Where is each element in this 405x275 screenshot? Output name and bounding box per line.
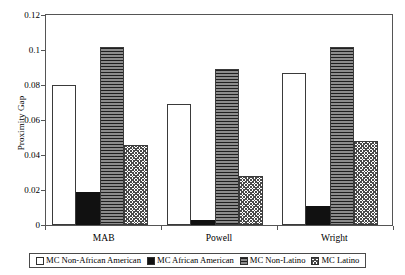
- x-axis-category-label: MAB: [59, 233, 149, 243]
- bar: [76, 192, 100, 225]
- legend-item: MC Latino: [308, 256, 362, 265]
- x-axis-tick-mark: [277, 226, 278, 230]
- y-axis-tick-label: 0.12: [5, 10, 45, 20]
- legend-label: MC Non-Latino: [250, 256, 306, 265]
- legend-item: MC Non-Latino: [237, 256, 309, 265]
- bars-layer: [46, 15, 392, 225]
- bar-group: [277, 15, 392, 225]
- bar: [330, 47, 354, 226]
- y-axis-tick-label: 0.02: [5, 185, 45, 195]
- x-axis-tick-mark: [393, 226, 394, 230]
- bar: [306, 206, 330, 225]
- x-axis-tick-mark: [45, 226, 46, 230]
- x-axis: MABPowellWright: [45, 226, 393, 250]
- bar: [100, 47, 124, 226]
- legend-swatch-icon: [147, 257, 155, 265]
- bar: [191, 220, 215, 225]
- legend-label: MC Non-African American: [46, 256, 141, 265]
- x-axis-category-label: Powell: [174, 233, 264, 243]
- x-axis-category-label: Wright: [289, 233, 379, 243]
- bar: [239, 176, 263, 225]
- y-axis-tick-label: 0: [5, 220, 45, 230]
- bar: [167, 104, 191, 225]
- legend: MC Non-African AmericanMC African Americ…: [29, 253, 366, 268]
- x-axis-tick-mark: [161, 226, 162, 230]
- legend-label: MC Latino: [321, 256, 359, 265]
- bar-chart: Proximity Gap 00.020.040.060.080.10.12 M…: [0, 0, 405, 275]
- bar: [52, 85, 76, 225]
- legend-swatch-icon: [36, 257, 44, 265]
- bar: [354, 141, 378, 225]
- y-axis-tick-label: 0.04: [5, 150, 45, 160]
- y-axis-tick-label: 0.1: [5, 45, 45, 55]
- bar-group: [161, 15, 276, 225]
- y-axis: 00.020.040.060.080.10.12: [0, 0, 45, 275]
- y-axis-tick-label: 0.06: [5, 115, 45, 125]
- bar-group: [46, 15, 161, 225]
- bar: [282, 73, 306, 225]
- legend-label: MC African American: [157, 256, 234, 265]
- legend-item: MC Non-African American: [33, 256, 144, 265]
- bar: [215, 69, 239, 225]
- bar: [124, 145, 148, 226]
- y-axis-tick-label: 0.08: [5, 80, 45, 90]
- legend-swatch-icon: [240, 257, 248, 265]
- legend-item: MC African American: [144, 256, 237, 265]
- legend-swatch-icon: [311, 257, 319, 265]
